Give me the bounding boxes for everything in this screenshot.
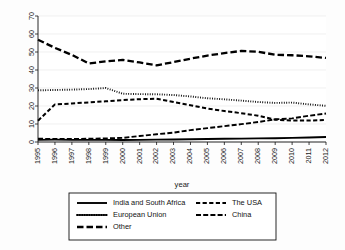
legend-label: Other	[113, 222, 132, 231]
x-tick-label: 2009	[270, 148, 279, 164]
x-tick-label: 2010	[287, 148, 296, 164]
x-tick-label: 2003	[168, 148, 177, 164]
legend-label: India and South Africa	[113, 198, 186, 207]
y-tick-label: 30	[27, 84, 36, 92]
y-tick-label: 20	[27, 102, 36, 110]
y-tick-label: 60	[27, 30, 36, 38]
plot-background	[38, 16, 326, 142]
x-tick-label: 2006	[219, 148, 228, 164]
y-tick-label: 40	[27, 66, 36, 74]
x-tick-label: 1997	[67, 148, 76, 164]
line-chart-svg: 010203040506070 199519961997199819992000…	[0, 0, 345, 250]
chart-figure: 010203040506070 199519961997199819992000…	[0, 0, 345, 250]
chart-canvas: 010203040506070 199519961997199819992000…	[0, 0, 345, 250]
x-tick-label: 1999	[101, 148, 110, 164]
x-tick-label: 2005	[202, 148, 211, 164]
x-tick-label: 2011	[304, 148, 313, 163]
x-tick-label: 1995	[33, 148, 42, 164]
legend-label: European Union	[113, 210, 166, 219]
x-tick-label: 2001	[135, 148, 144, 164]
y-tick-label: 50	[27, 48, 36, 56]
y-tick-label: 10	[27, 120, 36, 128]
legend-label: The USA	[232, 198, 262, 207]
x-tick-label: 1998	[84, 148, 93, 164]
x-tick-label: 2007	[236, 148, 245, 164]
x-tick-label: 2012	[321, 148, 330, 164]
x-tick-label: 2002	[151, 148, 160, 164]
x-tick-label: 2008	[253, 148, 262, 164]
y-tick-label: 70	[27, 12, 36, 20]
legend-label: China	[232, 210, 252, 219]
legend: India and South AfricaThe USAEuropean Un…	[69, 193, 276, 240]
x-axis-ticks: 1995199619971998199920002001200220032004…	[33, 142, 330, 164]
x-axis-label: year	[175, 180, 190, 189]
x-tick-label: 1996	[50, 148, 59, 164]
x-tick-label: 2000	[118, 148, 127, 164]
y-axis-ticks: 010203040506070	[27, 12, 38, 144]
x-tick-label: 2004	[185, 148, 194, 164]
y-tick-label: 0	[27, 140, 36, 144]
